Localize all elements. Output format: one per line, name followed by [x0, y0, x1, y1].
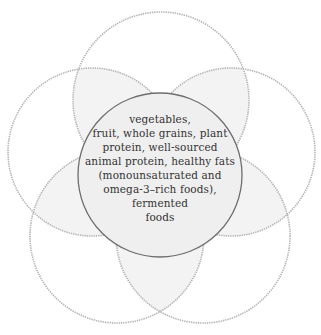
- center-label-line: omega-3–rich foods),: [78, 182, 242, 196]
- center-label-line: vegetables,: [78, 112, 242, 126]
- center-label-line: protein, well-sourced: [78, 140, 242, 154]
- center-label-line: foods: [78, 210, 242, 224]
- center-label-line: fermented: [78, 196, 242, 210]
- center-label-line: animal protein, healthy fats: [78, 154, 242, 168]
- center-label: vegetables, fruit, whole grains, plant p…: [78, 112, 242, 224]
- center-label-line: (monounsaturated and: [78, 168, 242, 182]
- center-label-line: fruit, whole grains, plant: [78, 126, 242, 140]
